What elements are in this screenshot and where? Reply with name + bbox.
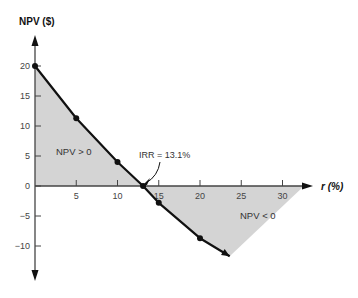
x-tick-label: 5 [74, 191, 79, 201]
x-tick-label: 10 [112, 191, 122, 201]
positive-npv-label: NPV > 0 [56, 146, 92, 157]
npv-profile-chart: 5101520253020151050−5−10 NPV ($) r (%) N… [0, 0, 358, 298]
positive-npv-region [35, 66, 143, 186]
negative-npv-label: NPV < 0 [240, 210, 276, 221]
y-axis-title: NPV ($) [19, 16, 55, 27]
data-point [32, 63, 38, 69]
y-tick-label: 15 [20, 91, 30, 101]
x-tick-label: 20 [195, 191, 205, 201]
data-point [197, 235, 203, 241]
x-tick-label: 30 [277, 191, 287, 201]
data-point [73, 115, 79, 121]
y-tick-label: −10 [15, 241, 30, 251]
x-axis-right-arrow-icon [302, 183, 313, 190]
irr-annotation-arrow [146, 162, 160, 183]
data-point [115, 159, 121, 165]
y-tick-label: 10 [20, 121, 30, 131]
y-tick-label: 5 [25, 151, 30, 161]
y-tick-label: 20 [20, 61, 30, 71]
y-axis-up-arrow-icon [32, 35, 39, 46]
y-tick-label: −5 [20, 211, 30, 221]
x-axis-title: r (%) [321, 181, 344, 192]
irr-annotation-label: IRR = 13.1% [139, 150, 190, 160]
y-axis-down-arrow-icon [32, 270, 39, 281]
y-tick-label: 0 [25, 181, 30, 191]
data-point [156, 200, 162, 206]
x-tick-label: 25 [236, 191, 246, 201]
